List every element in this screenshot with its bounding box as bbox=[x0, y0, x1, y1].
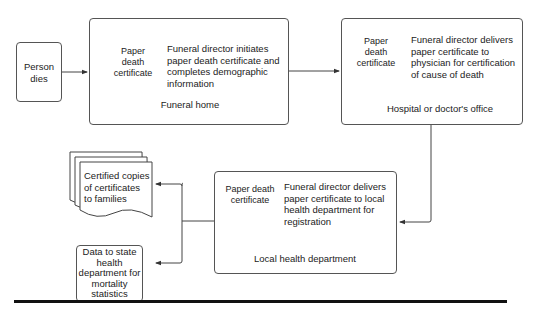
local-health-doc-label: Paper death certificate bbox=[225, 184, 275, 206]
funeral-home-description: Funeral director initiates paper death c… bbox=[167, 43, 282, 89]
arrow-to-copies bbox=[156, 184, 182, 186]
hospital-doc-label: Paper death certificate bbox=[352, 36, 400, 69]
funeral-home-location: Funeral home bbox=[150, 99, 230, 111]
person-dies-label: Person dies bbox=[18, 61, 60, 84]
local-health-description: Funeral director delivers paper certific… bbox=[284, 181, 394, 227]
local-health-location: Local health department bbox=[245, 253, 365, 265]
hospital-location: Hospital or doctor's office bbox=[380, 103, 500, 115]
certified-copies-label: Certified copies of certificates to fami… bbox=[84, 170, 150, 205]
hospital-description: Funeral director delivers paper certific… bbox=[411, 34, 521, 80]
bottom-rule bbox=[14, 300, 507, 303]
funeral-home-doc-label: Paper death certificate bbox=[109, 46, 157, 79]
arrow-hospital-to-local bbox=[400, 124, 431, 222]
state-data-label: Data to state health department for mort… bbox=[77, 247, 142, 300]
arrow-to-state bbox=[156, 183, 183, 263]
